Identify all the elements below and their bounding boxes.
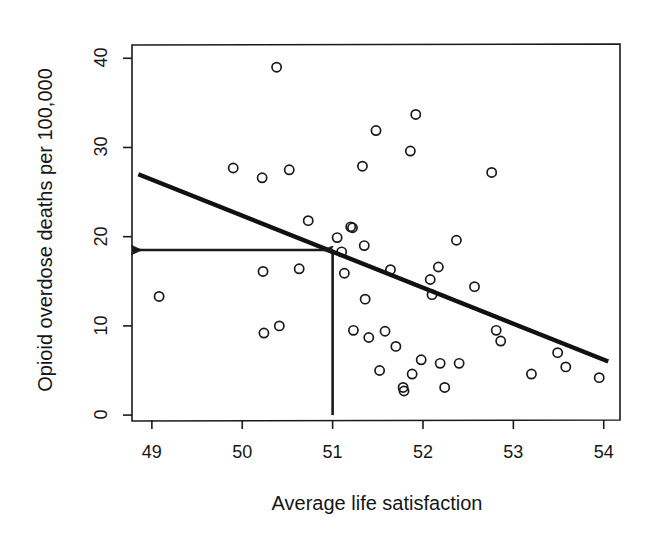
data-point bbox=[406, 146, 415, 155]
data-point bbox=[527, 369, 536, 378]
data-point bbox=[487, 168, 496, 177]
x-tick-label: 52 bbox=[403, 442, 443, 463]
data-point bbox=[258, 173, 267, 182]
data-point bbox=[349, 326, 358, 335]
y-tick-label: 30 bbox=[91, 127, 112, 167]
data-point bbox=[561, 362, 570, 371]
y-tick-label: 10 bbox=[91, 305, 112, 345]
data-point bbox=[258, 267, 267, 276]
data-point bbox=[333, 233, 342, 242]
x-axis-title: Average life satisfaction bbox=[132, 492, 622, 515]
data-point bbox=[436, 359, 445, 368]
data-point bbox=[371, 126, 380, 135]
data-point bbox=[364, 333, 373, 342]
x-tick-label: 50 bbox=[222, 442, 262, 463]
data-point bbox=[417, 355, 426, 364]
data-point bbox=[440, 383, 449, 392]
data-point bbox=[452, 236, 461, 245]
scatter-plot-figure: 495051525354 010203040 Opioid overdose d… bbox=[0, 0, 661, 543]
data-point bbox=[434, 262, 443, 271]
x-tick-label: 51 bbox=[313, 442, 353, 463]
data-point bbox=[426, 275, 435, 284]
data-point bbox=[492, 326, 501, 335]
data-point bbox=[340, 269, 349, 278]
data-point bbox=[360, 241, 369, 250]
data-point bbox=[155, 292, 164, 301]
data-point bbox=[411, 110, 420, 119]
axis-box bbox=[132, 44, 620, 421]
x-tick-label: 53 bbox=[493, 442, 533, 463]
data-point bbox=[295, 264, 304, 273]
y-axis-ticks bbox=[123, 58, 132, 415]
y-tick-label: 40 bbox=[91, 38, 112, 78]
y-axis-title: Opioid overdose deaths per 100,000 bbox=[34, 20, 57, 440]
data-points bbox=[155, 63, 604, 396]
y-tick-label: 0 bbox=[91, 395, 112, 435]
data-point bbox=[380, 327, 389, 336]
data-point bbox=[285, 165, 294, 174]
data-point bbox=[391, 342, 400, 351]
data-point bbox=[595, 373, 604, 382]
data-point bbox=[358, 162, 367, 171]
annotation-arrows bbox=[132, 250, 333, 415]
data-point bbox=[496, 336, 505, 345]
data-point bbox=[455, 359, 464, 368]
y-tick-label: 20 bbox=[91, 216, 112, 256]
x-tick-label: 54 bbox=[584, 442, 624, 463]
data-point bbox=[470, 282, 479, 291]
data-point bbox=[304, 216, 313, 225]
data-point bbox=[408, 369, 417, 378]
data-point bbox=[275, 321, 284, 330]
x-tick-label: 49 bbox=[132, 442, 172, 463]
data-point bbox=[361, 295, 370, 304]
data-point bbox=[375, 366, 384, 375]
data-point bbox=[272, 63, 281, 72]
data-point bbox=[229, 163, 238, 172]
data-point bbox=[259, 328, 268, 337]
regression-line bbox=[138, 174, 608, 361]
data-point bbox=[553, 348, 562, 357]
